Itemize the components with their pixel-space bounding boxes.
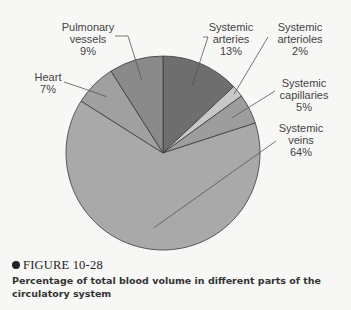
bullet-icon: [12, 261, 20, 269]
label-line2: arteries: [206, 33, 256, 45]
figure-number: FIGURE 10-28: [12, 258, 103, 273]
label-line2: veins: [276, 134, 326, 146]
label-line1: Systemic: [206, 21, 256, 33]
label-systemic-veins: Systemic veins 64%: [276, 122, 326, 158]
label-line1: Systemic: [276, 122, 326, 134]
label-line2: capillaries: [276, 89, 332, 101]
label-line2: arterioles: [272, 33, 328, 45]
label-line2: vessels: [60, 33, 116, 45]
label-heart: Heart 7%: [33, 71, 63, 95]
label-line1: Pulmonary: [60, 21, 116, 33]
label-percent: 64%: [276, 146, 326, 158]
label-systemic-arterioles: Systemic arterioles 2%: [272, 21, 328, 57]
label-systemic-capillaries: Systemic capillaries 5%: [276, 77, 332, 113]
label-line1: Heart: [33, 71, 63, 83]
label-line1: Systemic: [276, 77, 332, 89]
label-percent: 7%: [33, 83, 63, 95]
label-line1: Systemic: [272, 21, 328, 33]
label-percent: 2%: [272, 45, 328, 57]
figure-number-text: FIGURE 10-28: [23, 258, 103, 272]
label-pulmonary-vessels: Pulmonary vessels 9%: [60, 21, 116, 57]
label-systemic-arteries: Systemic arteries 13%: [206, 21, 256, 57]
label-percent: 5%: [276, 101, 332, 113]
figure-caption: Percentage of total blood volume in diff…: [12, 274, 342, 300]
label-percent: 9%: [60, 45, 116, 57]
label-percent: 13%: [206, 45, 256, 57]
